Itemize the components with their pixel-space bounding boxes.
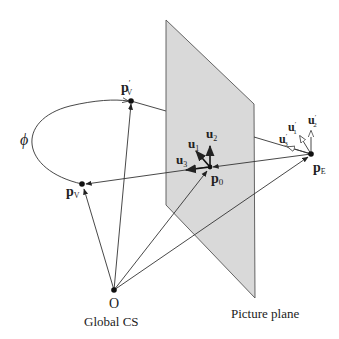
point-p0 — [208, 165, 213, 170]
line-pv-prime-to-plane — [131, 101, 166, 111]
point-o — [111, 287, 117, 293]
line-o-to-pv — [84, 189, 114, 290]
label-u1-prime: u′1 — [288, 120, 297, 136]
label-pv-prime: p′V — [121, 79, 133, 97]
point-pv-prime — [128, 98, 134, 104]
label-u2-prime: u′2 — [308, 113, 317, 129]
projection-diagram: ϕ p′V pV p0 pE u1 u2 u3 u′1 u′2 u′3 O Gl… — [0, 0, 339, 339]
label-picture-plane: Picture plane — [231, 306, 299, 321]
label-pv: pV — [66, 184, 80, 200]
rotation-arc — [32, 100, 128, 184]
label-pe: pE — [313, 160, 326, 176]
label-phi: ϕ — [20, 131, 28, 149]
label-u3-prime: u′3 — [279, 132, 288, 148]
frame-at-pe — [288, 131, 311, 154]
point-pv — [79, 181, 85, 187]
line-o-to-pv-prime — [114, 104, 131, 290]
label-global-cs: Global CS — [84, 314, 139, 329]
label-origin: O — [109, 296, 119, 311]
point-pe — [308, 151, 314, 157]
rear-lines — [32, 100, 166, 290]
